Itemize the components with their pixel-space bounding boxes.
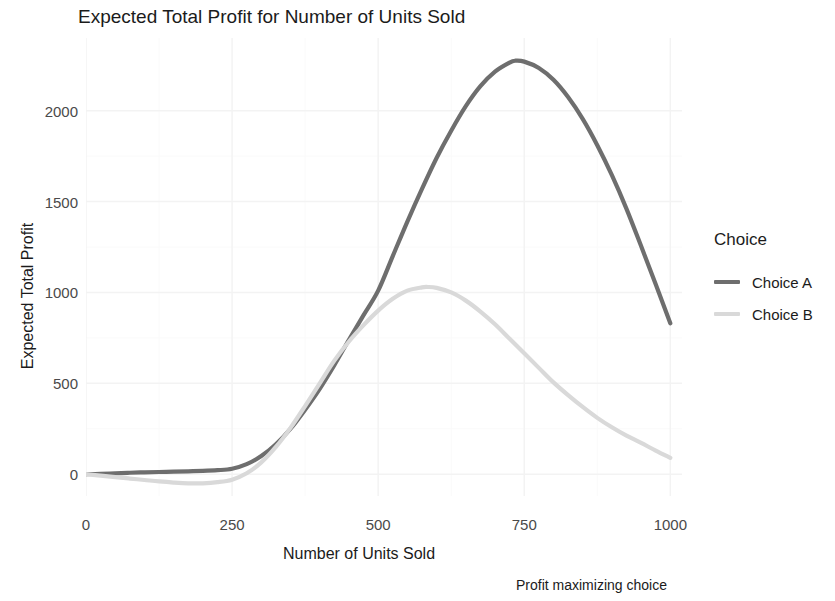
- y-tick-label: 1000: [18, 284, 78, 301]
- y-tick-label: 500: [18, 375, 78, 392]
- y-tick-label: 0: [18, 466, 78, 483]
- legend-item-choice-a[interactable]: Choice A: [714, 266, 834, 298]
- legend-item-choice-b[interactable]: Choice B: [714, 298, 834, 330]
- plot-area: [86, 38, 682, 496]
- legend-key-icon: [714, 312, 740, 316]
- grid-lines: [86, 38, 682, 496]
- legend: Choice Choice AChoice B: [714, 230, 834, 330]
- x-tick-label: 0: [51, 516, 121, 533]
- x-tick-label: 250: [197, 516, 267, 533]
- y-tick-label: 1500: [18, 193, 78, 210]
- legend-label: Choice A: [752, 274, 812, 291]
- chart-title: Expected Total Profit for Number of Unit…: [78, 6, 465, 28]
- x-tick-label: 1000: [635, 516, 705, 533]
- y-tick-label: 2000: [18, 102, 78, 119]
- legend-key-icon: [714, 280, 740, 284]
- chart-caption: Profit maximizing choice: [516, 577, 667, 593]
- chart-container: Expected Total Profit for Number of Unit…: [0, 0, 835, 601]
- x-tick-label: 750: [489, 516, 559, 533]
- x-axis-title: Number of Units Sold: [283, 545, 435, 563]
- legend-entries: Choice AChoice B: [714, 266, 834, 330]
- legend-label: Choice B: [752, 306, 813, 323]
- x-tick-label: 500: [343, 516, 413, 533]
- plot-panel: [86, 38, 682, 496]
- legend-title: Choice: [714, 230, 834, 250]
